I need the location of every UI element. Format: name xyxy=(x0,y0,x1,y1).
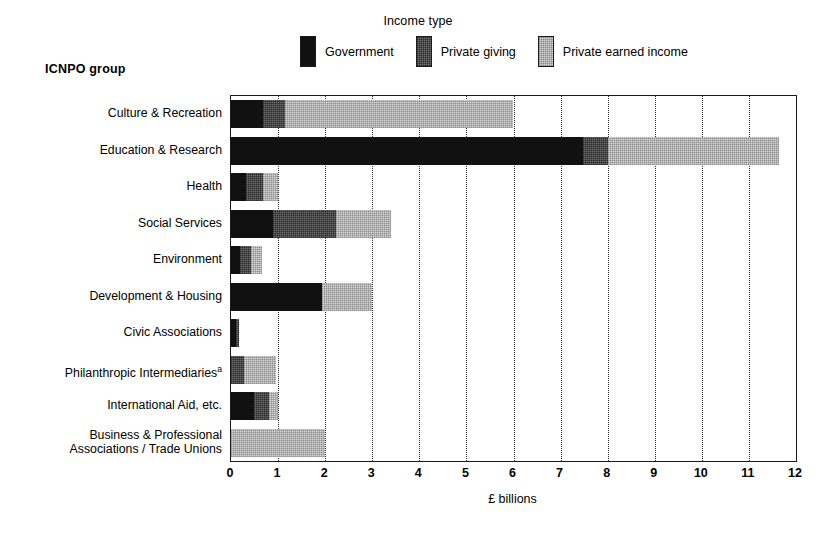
y-tick-label: Culture & Recreation xyxy=(10,106,222,120)
bar-row xyxy=(231,315,796,352)
x-axis-title: £ billions xyxy=(230,492,795,506)
bar-segment-private-giving[interactable] xyxy=(583,137,608,165)
y-tick-label: Philanthropic Intermediariesa xyxy=(10,362,222,380)
bar-segment-government[interactable] xyxy=(231,283,322,311)
legend-label: Private giving xyxy=(441,45,516,59)
bar-segment-government[interactable] xyxy=(231,210,273,238)
bar-segment-private-giving[interactable] xyxy=(254,392,269,420)
bar-segment-private-earned-income[interactable] xyxy=(251,246,262,274)
x-tick-label: 3 xyxy=(368,466,375,480)
bar-segment-government[interactable] xyxy=(231,392,254,420)
legend-swatch-private-earned-income-icon xyxy=(538,36,554,67)
bar-segment-private-earned-income[interactable] xyxy=(231,429,325,457)
stacked-bar[interactable] xyxy=(231,100,513,128)
bar-row xyxy=(231,96,796,133)
bar-segment-private-giving[interactable] xyxy=(236,319,239,347)
bar-segment-government[interactable] xyxy=(231,173,246,201)
x-tick-label: 0 xyxy=(227,466,234,480)
legend-entry-private-giving[interactable]: Private giving xyxy=(416,36,516,67)
legend-items: GovernmentPrivate givingPrivate earned i… xyxy=(300,36,688,67)
x-tick-label: 2 xyxy=(321,466,328,480)
y-axis-tick-labels: Culture & RecreationEducation & Research… xyxy=(8,95,222,460)
x-axis-tick-labels: 0123456789101112 xyxy=(230,466,795,486)
stacked-bar[interactable] xyxy=(231,429,325,457)
y-axis-title: ICNPO group xyxy=(45,62,126,76)
y-tick-label: Environment xyxy=(10,252,222,266)
bar-row xyxy=(231,242,796,279)
bar-row xyxy=(231,279,796,316)
x-tick-label: 4 xyxy=(415,466,422,480)
footnote-marker: a xyxy=(217,364,222,374)
bar-row xyxy=(231,388,796,425)
bar-segment-private-earned-income[interactable] xyxy=(269,392,278,420)
stacked-bar[interactable] xyxy=(231,173,278,201)
legend-label: Private earned income xyxy=(563,45,688,59)
plot-area xyxy=(230,95,797,462)
legend-swatch-private-giving-icon xyxy=(416,36,432,67)
bar-row xyxy=(231,352,796,389)
x-tick-label: 6 xyxy=(509,466,516,480)
bar-segment-private-earned-income[interactable] xyxy=(263,173,278,201)
stacked-bar[interactable] xyxy=(231,392,278,420)
legend-entry-government[interactable]: Government xyxy=(300,36,394,67)
y-tick-label: Civic Associations xyxy=(10,325,222,339)
bar-row xyxy=(231,169,796,206)
bar-segment-private-earned-income[interactable] xyxy=(322,283,372,311)
bar-segment-private-giving[interactable] xyxy=(263,100,285,128)
legend-label: Government xyxy=(325,45,394,59)
legend-swatch-government-icon xyxy=(300,36,316,67)
stacked-bar[interactable] xyxy=(231,210,391,238)
stacked-bar[interactable] xyxy=(231,283,372,311)
y-tick-label: Health xyxy=(10,179,222,193)
legend-title: Income type xyxy=(0,14,836,28)
stacked-bar[interactable] xyxy=(231,137,779,165)
bar-segment-private-earned-income[interactable] xyxy=(336,210,391,238)
y-tick-label: Development & Housing xyxy=(10,289,222,303)
bar-segment-private-earned-income[interactable] xyxy=(285,100,514,128)
legend-entry-private-earned-income[interactable]: Private earned income xyxy=(538,36,688,67)
stacked-bar[interactable] xyxy=(231,319,239,347)
bar-row xyxy=(231,206,796,243)
x-tick-label: 1 xyxy=(274,466,281,480)
y-tick-label: Business & Professional Associations / T… xyxy=(10,428,222,456)
y-tick-label: Social Services xyxy=(10,216,222,230)
bar-segment-private-giving[interactable] xyxy=(240,246,251,274)
x-tick-label: 12 xyxy=(788,466,802,480)
y-tick-label: International Aid, etc. xyxy=(10,398,222,412)
bar-segment-private-giving[interactable] xyxy=(246,173,263,201)
bar-segment-private-giving[interactable] xyxy=(231,356,244,384)
bar-segment-government[interactable] xyxy=(231,100,263,128)
x-tick-label: 5 xyxy=(462,466,469,480)
stacked-bar[interactable] xyxy=(231,356,276,384)
x-tick-label: 7 xyxy=(556,466,563,480)
x-tick-label: 9 xyxy=(650,466,657,480)
y-tick-label: Education & Research xyxy=(10,143,222,157)
x-tick-label: 8 xyxy=(603,466,610,480)
bar-segment-private-giving[interactable] xyxy=(273,210,336,238)
x-tick-label: 10 xyxy=(694,466,708,480)
stacked-bar[interactable] xyxy=(231,246,262,274)
x-tick-label: 11 xyxy=(741,466,754,480)
bar-segment-private-earned-income[interactable] xyxy=(608,137,779,165)
bar-row xyxy=(231,133,796,170)
bar-row xyxy=(231,425,796,462)
bar-segment-private-earned-income[interactable] xyxy=(244,356,276,384)
bar-segment-government[interactable] xyxy=(231,137,583,165)
bar-segment-government[interactable] xyxy=(231,246,240,274)
stacked-bar-chart: Income type GovernmentPrivate givingPriv… xyxy=(0,0,836,535)
